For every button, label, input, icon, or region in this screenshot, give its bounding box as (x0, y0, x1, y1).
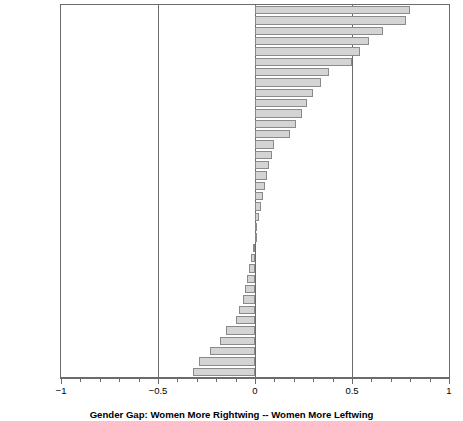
x-tick-label: 0 (252, 385, 257, 396)
bar (255, 151, 272, 159)
x-tick-major (255, 378, 256, 384)
chart-figure: JapanIrelandDenmarkAustriaNetherlandsE.G… (0, 0, 463, 421)
x-tick-minor (236, 378, 237, 382)
bar (249, 264, 255, 272)
x-tick-label: −0.5 (149, 385, 168, 396)
bar (226, 326, 255, 334)
bar (239, 306, 255, 314)
reference-line-neg0p5 (158, 5, 159, 377)
x-tick-major (352, 378, 353, 384)
bar (255, 182, 265, 190)
bar (255, 78, 321, 86)
bar (236, 316, 255, 324)
x-axis-title: Gender Gap: Women More Rightwing -- Wome… (0, 409, 463, 420)
bar (247, 275, 255, 283)
bar (193, 368, 255, 376)
bar (255, 171, 267, 179)
bar (255, 223, 257, 231)
bar (220, 337, 255, 345)
bar (199, 357, 255, 365)
x-tick-minor (410, 378, 411, 382)
x-tick-major (61, 378, 62, 384)
reference-line-0p5 (352, 5, 353, 377)
x-tick-minor (274, 378, 275, 382)
x-tick-major (158, 378, 159, 384)
bar (255, 47, 360, 55)
bar (255, 89, 313, 97)
plot-area (60, 4, 450, 378)
bar (255, 6, 410, 14)
x-tick-minor (177, 378, 178, 382)
bar (255, 213, 259, 221)
x-axis: −1−0.500.51 (60, 378, 450, 402)
x-tick-minor (80, 378, 81, 382)
x-tick-minor (119, 378, 120, 382)
x-tick-minor (391, 378, 392, 382)
bar (255, 37, 369, 45)
bar (255, 99, 307, 107)
bar (255, 58, 352, 66)
bar (255, 202, 261, 210)
bar (255, 68, 329, 76)
x-tick-minor (197, 378, 198, 382)
x-tick-minor (430, 378, 431, 382)
x-tick-major (449, 378, 450, 384)
x-tick-minor (333, 378, 334, 382)
x-tick-minor (216, 378, 217, 382)
bar (253, 244, 255, 252)
bar (210, 347, 255, 355)
x-tick-minor (371, 378, 372, 382)
bar (255, 109, 302, 117)
x-tick-minor (100, 378, 101, 382)
bar (255, 120, 296, 128)
bar (255, 27, 383, 35)
x-tick-minor (294, 378, 295, 382)
bar (255, 130, 290, 138)
bar (255, 161, 269, 169)
bar (255, 16, 406, 24)
bar (245, 285, 255, 293)
bar (251, 254, 255, 262)
x-tick-label: 1 (446, 385, 451, 396)
bar (255, 192, 263, 200)
x-tick-label: −1 (56, 385, 67, 396)
bar (255, 233, 257, 241)
bar (243, 295, 255, 303)
bar (255, 140, 274, 148)
x-tick-minor (313, 378, 314, 382)
x-tick-label: 0.5 (345, 385, 358, 396)
x-tick-minor (139, 378, 140, 382)
